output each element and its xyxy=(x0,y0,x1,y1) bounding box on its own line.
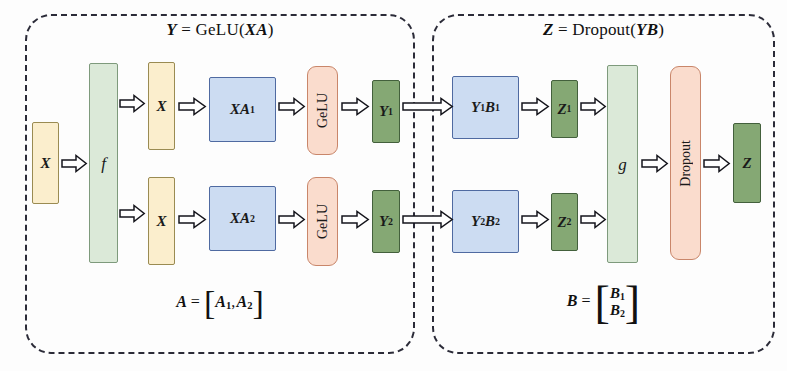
node-y2-index: 2 xyxy=(388,217,393,227)
node-xa1-index: 1 xyxy=(250,105,255,115)
node-y2b2[interactable]: Y2B2 xyxy=(452,190,519,253)
gelu-title-lhs: Y xyxy=(166,20,177,39)
node-y2-label: Y xyxy=(379,214,388,229)
node-y1b1-label-y: Y xyxy=(471,100,480,115)
node-y2b2-label-y: Y xyxy=(471,214,480,229)
a-matrix-equals: = xyxy=(191,293,200,310)
node-g-column-label: g xyxy=(618,156,627,173)
b-matrix-stack: B1 B2 xyxy=(610,286,625,319)
gelu-title-equals: = xyxy=(181,20,191,39)
node-x-bottom[interactable]: X xyxy=(148,177,175,265)
node-xa1-label: XA xyxy=(230,102,250,117)
node-y2b2-index-b: 2 xyxy=(495,217,500,227)
node-x-bottom-label: X xyxy=(156,214,166,229)
node-gelu-top-label: GeLU xyxy=(316,93,330,128)
node-x-top-label: X xyxy=(156,99,166,114)
diagram-canvas: Y = GeLU(XA) A = [A1, A2] X f X X XA1 XA… xyxy=(0,0,787,371)
node-xa2-label: XA xyxy=(230,211,250,226)
node-y1b1-label-b: B xyxy=(485,100,495,115)
node-z2[interactable]: Z2 xyxy=(551,193,578,251)
gelu-title-close-paren: ) xyxy=(268,20,274,39)
a-bracket-open: [ xyxy=(204,288,215,319)
b-matrix-symbol: B xyxy=(567,292,578,309)
node-y2[interactable]: Y2 xyxy=(372,190,400,253)
a-comma: , xyxy=(231,293,235,310)
node-y1[interactable]: Y1 xyxy=(372,80,400,143)
node-input-x[interactable]: X xyxy=(32,122,59,204)
a-matrix-symbol: A xyxy=(176,293,187,310)
dropout-title-close-paren: ) xyxy=(658,20,664,39)
a-shard-2: A xyxy=(237,293,248,310)
node-input-x-label: X xyxy=(40,156,50,171)
dropout-panel-footer: B = [ B1 B2 ] xyxy=(432,282,775,323)
gelu-panel-title: Y = GeLU(XA) xyxy=(25,20,415,40)
node-y1b1-index-b: 1 xyxy=(495,103,500,113)
node-y1-index: 1 xyxy=(388,107,393,117)
a-shard-1: A xyxy=(215,293,226,310)
node-f-column-label: f xyxy=(101,155,106,172)
node-y1-label: Y xyxy=(379,104,388,119)
node-z1[interactable]: Z1 xyxy=(551,80,578,138)
b-bracket-close: ] xyxy=(625,282,640,323)
node-xa2-index: 2 xyxy=(250,214,255,224)
b-shard-1: B xyxy=(610,285,620,301)
b-bracket-open: [ xyxy=(595,282,610,323)
dropout-panel-title: Z = Dropout(YB) xyxy=(432,20,775,40)
dropout-title-equals: = xyxy=(558,20,568,39)
b-matrix-equals: = xyxy=(582,292,591,309)
node-x-top[interactable]: X xyxy=(148,62,175,150)
node-dropout[interactable]: Dropout xyxy=(670,66,701,260)
node-z1-index: 1 xyxy=(567,104,572,114)
gelu-title-function: GeLU( xyxy=(196,20,245,39)
dropout-title-lhs: Z xyxy=(543,20,554,39)
dropout-title-argument: YB xyxy=(636,20,658,39)
node-output-z-label: Z xyxy=(742,156,751,171)
b-shard-2: B xyxy=(610,302,620,318)
node-z1-label: Z xyxy=(557,102,566,117)
node-y1b1[interactable]: Y1B1 xyxy=(452,76,519,139)
node-gelu-bottom-label: GeLU xyxy=(316,204,330,239)
node-xa1[interactable]: XA1 xyxy=(209,77,276,142)
node-gelu-top[interactable]: GeLU xyxy=(307,66,338,155)
node-g-column[interactable]: g xyxy=(607,65,638,263)
node-z2-label: Z xyxy=(557,215,566,230)
node-xa2[interactable]: XA2 xyxy=(209,186,276,251)
node-z2-index: 2 xyxy=(567,217,572,227)
node-dropout-label: Dropout xyxy=(679,140,693,187)
node-gelu-bottom[interactable]: GeLU xyxy=(307,177,338,266)
gelu-panel-footer: A = [A1, A2] xyxy=(25,288,415,319)
gelu-title-argument: XA xyxy=(245,20,268,39)
node-y2b2-label-b: B xyxy=(485,214,495,229)
node-output-z[interactable]: Z xyxy=(733,123,761,203)
dropout-title-function: Dropout( xyxy=(572,20,636,39)
a-bracket-close: ] xyxy=(252,288,263,319)
node-f-column[interactable]: f xyxy=(89,63,118,263)
